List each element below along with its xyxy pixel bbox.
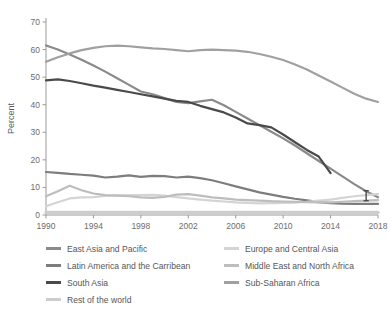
legend-item[interactable]: Europe and Central Asia — [224, 240, 392, 257]
y-axis-title: Percent — [6, 102, 16, 134]
y-tick-label: 10 — [31, 182, 41, 192]
legend-item[interactable]: Rest of the world — [46, 291, 226, 308]
legend-swatch-icon — [224, 264, 239, 267]
legend-item[interactable]: South Asia — [46, 274, 226, 291]
legend-swatch-icon — [46, 281, 61, 284]
legend-column-left: East Asia and PacificLatin America and t… — [46, 240, 226, 308]
legend-item-label: Europe and Central Asia — [245, 244, 338, 254]
legend-item[interactable]: Middle East and North Africa — [224, 257, 392, 274]
legend-swatch-icon — [224, 247, 239, 250]
y-tick-label: 20 — [31, 155, 41, 165]
x-tick-label: 1990 — [37, 221, 56, 231]
y-tick-label: 50 — [31, 72, 41, 82]
y-tick-label: 30 — [31, 127, 41, 137]
legend-item[interactable]: East Asia and Pacific — [46, 240, 226, 257]
x-tick-label: 2006 — [226, 221, 245, 231]
series-line — [46, 79, 331, 173]
legend-swatch-icon — [46, 264, 61, 267]
legend-item-label: Latin America and the Carribean — [67, 261, 190, 271]
y-tick-label: 70 — [31, 17, 41, 27]
legend-item-label: South Asia — [67, 278, 108, 288]
y-tick-label: 0 — [35, 210, 40, 220]
legend-item-label: Sub-Saharan Africa — [245, 278, 320, 288]
x-tick-label: 2018 — [369, 221, 388, 231]
series-line — [46, 45, 378, 197]
legend-item[interactable]: Latin America and the Carribean — [46, 257, 226, 274]
y-tick-label: 60 — [31, 45, 41, 55]
plot-area: 0102030405060701990199419982002200620102… — [0, 0, 392, 240]
legend-column-right: Europe and Central AsiaMiddle East and N… — [224, 240, 392, 291]
series-line — [46, 46, 378, 102]
x-tick-label: 2002 — [179, 221, 198, 231]
x-tick-label: 2010 — [274, 221, 293, 231]
x-tick-label: 1998 — [131, 221, 150, 231]
series-line — [46, 194, 378, 206]
x-tick-label: 2014 — [321, 221, 340, 231]
legend-item[interactable]: Sub-Saharan Africa — [224, 274, 392, 291]
legend-item-label: Middle East and North Africa — [245, 261, 354, 271]
legend-item-label: East Asia and Pacific — [67, 244, 147, 254]
chart-root: 0102030405060701990199419982002200620102… — [0, 0, 392, 315]
legend-item-label: Rest of the world — [67, 295, 131, 305]
y-tick-label: 40 — [31, 100, 41, 110]
line-chart-svg: 0102030405060701990199419982002200620102… — [0, 0, 392, 240]
x-tick-label: 1994 — [84, 221, 103, 231]
legend-swatch-icon — [46, 298, 61, 301]
legend-swatch-icon — [46, 247, 61, 250]
legend-swatch-icon — [224, 281, 239, 284]
chart-legend: East Asia and PacificLatin America and t… — [46, 240, 386, 312]
